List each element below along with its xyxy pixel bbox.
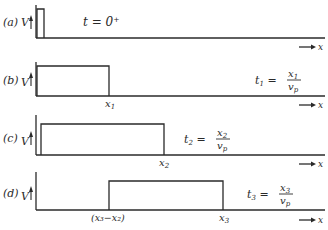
time-equation-d: t3 = x3 vp [247, 182, 293, 208]
x-axis-label: x [318, 100, 323, 110]
svg-text:x1: x1 [288, 68, 298, 81]
pulse [109, 181, 223, 210]
v-label: V [21, 190, 30, 203]
svg-text:vp: vp [280, 195, 291, 208]
pulse [37, 66, 109, 96]
svg-text:vp: vp [217, 140, 228, 153]
panel-a [36, 5, 325, 47]
svg-text:t1 =: t1 = [255, 74, 277, 88]
v-label: V [21, 135, 30, 148]
x-mark-x3-minus-x2: (x₃−x₂) [91, 212, 125, 223]
x-mark-x3: x3 [219, 212, 230, 225]
panel-c [36, 115, 325, 164]
pulse [41, 124, 164, 155]
x-mark-x2: x2 [159, 157, 170, 170]
svg-text:t3 =: t3 = [247, 188, 269, 202]
svg-text:vp: vp [288, 81, 299, 94]
time-equation-b: t1 = x1 vp [255, 68, 301, 94]
svg-text:t2 =: t2 = [184, 133, 206, 147]
panel-tag: (a) [3, 16, 18, 29]
v-label: V [21, 16, 30, 29]
v-label: V [21, 76, 30, 89]
svg-text:x2: x2 [217, 127, 228, 140]
panel-tag: (b) [3, 74, 19, 87]
x-axis-label: x [318, 215, 323, 225]
panel-tag: (c) [3, 132, 18, 145]
pulse [37, 9, 44, 38]
panel-b [36, 62, 325, 105]
x-axis-label: x [318, 159, 323, 169]
time-equation-c: t2 = x2 vp [184, 127, 230, 153]
x-axis-label: x [318, 42, 323, 52]
time-equation: t = 0⁺ [83, 15, 119, 29]
svg-text:x3: x3 [280, 182, 291, 195]
panel-tag: (d) [3, 187, 19, 200]
x-mark-x1: x1 [105, 98, 115, 111]
pulse-propagation-diagram: (a) V t = 0⁺ x (b) V x (c) V x (d) V x x… [0, 0, 328, 230]
